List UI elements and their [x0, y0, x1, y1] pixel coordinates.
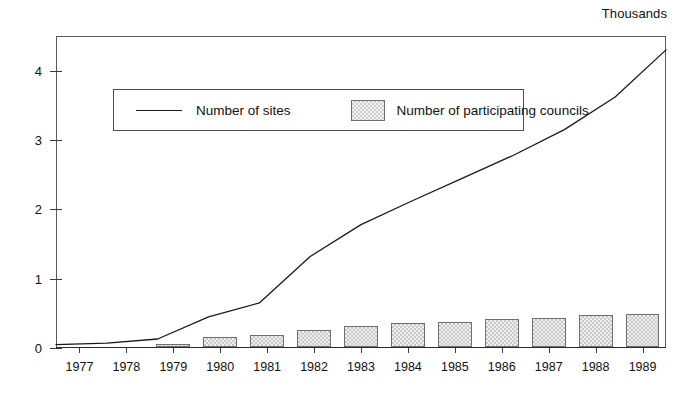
x-tick-1988	[596, 348, 597, 353]
x-tick-1985	[455, 348, 456, 353]
chart-legend: Number of sites Number of participating …	[113, 89, 524, 131]
x-tick-label-1983: 1983	[347, 360, 375, 374]
x-tick-1982	[314, 348, 315, 353]
legend-bar-swatch-icon	[351, 100, 385, 121]
x-tick-1989	[643, 348, 644, 353]
x-tick-label-1982: 1982	[300, 360, 328, 374]
x-tick-1983	[361, 348, 362, 353]
x-tick-label-1987: 1987	[535, 360, 563, 374]
legend-item-participating-councils: Number of participating councils	[351, 100, 589, 121]
x-tick-1981	[267, 348, 268, 353]
y-tick-label-4: 4	[35, 63, 42, 78]
legend-label-number-of-sites: Number of sites	[196, 103, 291, 118]
y-tick-label-1: 1	[35, 271, 42, 286]
x-tick-1987	[549, 348, 550, 353]
legend-label-participating-councils: Number of participating councils	[397, 103, 589, 118]
x-tick-label-1980: 1980	[206, 360, 234, 374]
line-series-layer	[56, 36, 666, 348]
x-tick-label-1989: 1989	[629, 360, 657, 374]
y-tick-0	[50, 348, 62, 349]
x-tick-1977	[79, 348, 80, 353]
plot-area: Number of sites Number of participating …	[56, 36, 666, 348]
y-tick-label-3: 3	[35, 133, 42, 148]
x-tick-label-1977: 1977	[66, 360, 94, 374]
x-tick-1979	[173, 348, 174, 353]
y-tick-label-2: 2	[35, 202, 42, 217]
y-axis-tick-labels: 01234	[0, 36, 56, 348]
legend-item-number-of-sites: Number of sites	[136, 103, 291, 118]
x-tick-label-1986: 1986	[488, 360, 516, 374]
x-axis-tick-labels: 1977197819791980198119821983198419851986…	[56, 360, 666, 384]
x-tick-1984	[408, 348, 409, 353]
chart-container: Thousands 01234 Number of sites Number o…	[0, 0, 685, 394]
x-tick-1986	[502, 348, 503, 353]
x-tick-label-1978: 1978	[112, 360, 140, 374]
x-tick-1978	[126, 348, 127, 353]
x-tick-1980	[220, 348, 221, 353]
unit-label: Thousands	[602, 6, 667, 21]
x-tick-label-1979: 1979	[159, 360, 187, 374]
legend-line-sample-icon	[136, 110, 182, 111]
x-tick-label-1985: 1985	[441, 360, 469, 374]
x-tick-label-1984: 1984	[394, 360, 422, 374]
x-tick-label-1981: 1981	[253, 360, 281, 374]
y-tick-label-0: 0	[35, 341, 42, 356]
x-tick-label-1988: 1988	[582, 360, 610, 374]
